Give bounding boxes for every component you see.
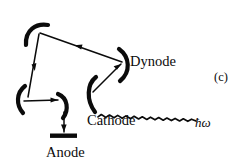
- cathode-plate: [89, 77, 96, 112]
- electron-path-dynode3-to-dynode4: [24, 98, 58, 103]
- figure-canvas: Dynode Cathode Anode ħω (c): [0, 0, 245, 164]
- electron-path-dynode3-to-dynode2: [28, 34, 39, 97]
- electron-arrow-head-1: [114, 64, 121, 70]
- cathode-arc: [89, 77, 96, 112]
- electron-arrow-head-5: [61, 125, 67, 133]
- electron-arrow-head-4: [51, 98, 59, 103]
- dynode-label: Dynode: [130, 54, 176, 69]
- electron-path-dynode1-to-dynode2: [40, 33, 122, 62]
- electron-arrow-head-2: [75, 45, 83, 50]
- cathode-label: Cathode: [87, 113, 135, 128]
- dynode-3-plate: [18, 86, 25, 113]
- pmt-diagram-svg: [0, 0, 245, 164]
- dynode-4-plate: [58, 94, 67, 118]
- dynode-4-arc: [58, 94, 67, 118]
- photon-energy-label: ħω: [195, 116, 211, 129]
- anode-bar: [50, 134, 77, 138]
- panel-label: (c): [214, 71, 228, 84]
- anode-plate: [50, 134, 77, 138]
- dynode-3-arc: [18, 86, 25, 113]
- anode-label: Anode: [46, 145, 85, 160]
